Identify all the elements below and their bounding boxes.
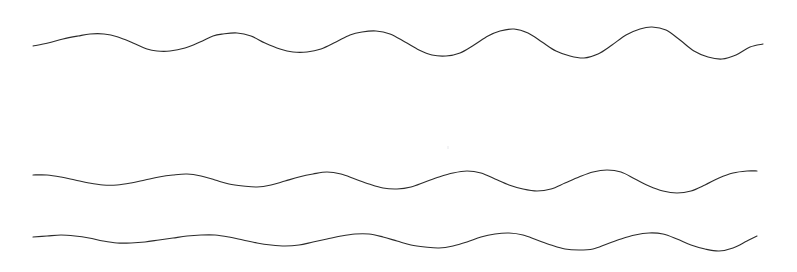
- wave-figure: [0, 0, 797, 272]
- background-speck: [447, 146, 449, 149]
- chart-background: [0, 0, 797, 272]
- wave-chart-svg: [0, 0, 797, 272]
